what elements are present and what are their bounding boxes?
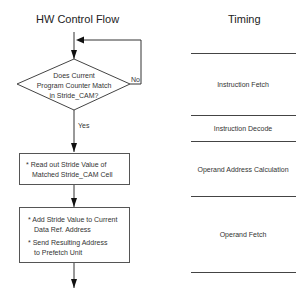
loop-arrow-icon [76,37,84,44]
box2-arrow-icon [71,198,77,207]
timing-divider-2 [191,115,296,116]
yes-arrow-icon [71,143,77,152]
read-stride-box: * Read out Stride Value of Matched Strid… [19,153,130,185]
flow-title: HW Control Flow [36,13,119,25]
timing-title: Timing [228,13,261,25]
stage-instruction-decode: Instruction Decode [214,125,272,132]
box1-line-2: Matched Stride_CAM Cell [26,170,125,180]
stage-operand-fetch: Operand Fetch [220,231,267,238]
decision-line-2: Program Counter Match [37,81,112,91]
decision-text: Does Current Program Counter Match in St… [37,71,112,101]
exit-arrow-icon [71,279,77,288]
entry-arrow-icon [71,50,77,59]
timing-divider-5 [191,272,296,273]
add-stride-box: * Add Stride Value to Current Data Ref. … [19,207,130,263]
box1-line-1: * Read out Stride Value of [26,160,125,170]
box2-line-1: * Add Stride Value to Current [28,215,125,225]
decision-line-1: Does Current [37,71,112,81]
yes-label: Yes [78,122,89,129]
box2-line-4: to Prefetch Unit [28,248,125,258]
box2-line-2: Data Ref. Address [28,225,125,235]
box2-line-3: * Send Resulting Address [28,238,125,248]
stage-operand-address-calculation: Operand Address Calculation [197,166,288,173]
no-label: No [131,76,140,83]
stage-instruction-fetch: Instruction Fetch [217,81,269,88]
timing-divider-3 [191,141,296,142]
timing-divider-1 [191,53,296,54]
decision-line-3: in Stride_CAM? [37,91,112,101]
timing-divider-4 [191,196,296,197]
